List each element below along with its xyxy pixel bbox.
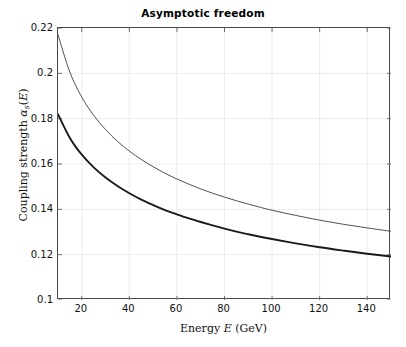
plot-svg xyxy=(58,28,391,300)
plot-area xyxy=(57,27,390,299)
y-tick-label: 0.18 xyxy=(31,112,53,123)
y-tick-label: 0.2 xyxy=(37,67,53,78)
y-axis-label: Coupling strength αs(E) xyxy=(17,45,31,265)
x-tick-label: 20 xyxy=(74,303,87,314)
gridlines xyxy=(58,28,391,300)
y-axis-label-variable: E xyxy=(17,93,30,101)
x-axis-label-pre: Energy xyxy=(180,322,224,335)
y-axis-label-pre: Coupling strength xyxy=(17,117,30,222)
x-tick-label: 60 xyxy=(170,303,183,314)
x-tick-label: 40 xyxy=(122,303,135,314)
x-tick-label: 140 xyxy=(357,303,376,314)
x-tick-label: 100 xyxy=(262,303,281,314)
y-tick-label: 0.12 xyxy=(31,248,53,259)
y-axis-label-subscript: s xyxy=(22,105,31,109)
x-axis-label-post: (GeV) xyxy=(232,322,267,335)
chart-title: Asymptotic freedom xyxy=(0,7,406,19)
y-tick-label: 0.1 xyxy=(37,294,53,305)
chart-figure: Asymptotic freedom 0.220.20.180.160.140.… xyxy=(0,0,406,347)
y-tick-label: 0.16 xyxy=(31,158,53,169)
y-tick-label: 0.14 xyxy=(31,203,53,214)
y-axis-label-paren-close: ) xyxy=(17,89,30,93)
x-tick-label: 120 xyxy=(309,303,328,314)
y-axis-label-paren-open: ( xyxy=(17,101,30,105)
y-axis-label-alpha: α xyxy=(17,109,30,116)
x-tick-label: 80 xyxy=(217,303,230,314)
x-axis-label: Energy E (GeV) xyxy=(57,322,390,335)
x-axis-label-variable: E xyxy=(224,322,232,335)
y-tick-label: 0.22 xyxy=(31,22,53,33)
